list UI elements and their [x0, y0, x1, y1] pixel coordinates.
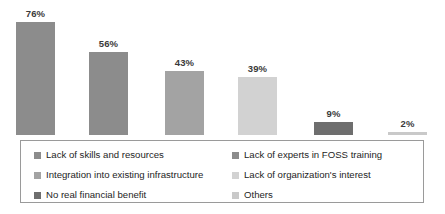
bar-value-label: 56%	[79, 38, 139, 49]
bar-group: 39%	[238, 77, 277, 135]
chart-legend: Lack of skills and resourcesIntegration …	[20, 140, 424, 203]
bar-group: 56%	[89, 52, 128, 135]
bar-value-label: 39%	[228, 63, 288, 74]
legend-item-label: Lack of organization's interest	[244, 170, 371, 180]
legend-item[interactable]: Lack of organization's interest	[232, 166, 423, 184]
legend-item[interactable]: Lack of experts in FOSS training	[232, 146, 423, 164]
bar-value-label: 9%	[304, 108, 364, 119]
legend-item-label: No real financial benefit	[46, 190, 146, 200]
bar-group: 43%	[165, 71, 204, 135]
legend-swatch-icon	[232, 152, 239, 159]
bar-chart: 76%56%43%39%9%2% Lack of skills and reso…	[0, 0, 445, 214]
bar	[238, 77, 277, 135]
bar	[89, 52, 128, 135]
bar-group: 9%	[314, 122, 353, 135]
legend-item[interactable]: Lack of skills and resources	[34, 146, 222, 164]
legend-swatch-icon	[232, 172, 239, 179]
legend-item-label: Lack of experts in FOSS training	[244, 150, 382, 160]
legend-item[interactable]: Others	[232, 186, 423, 204]
legend-swatch-icon	[34, 172, 41, 179]
legend-item-label: Integration into existing infrastructure	[46, 170, 203, 180]
legend-item-label: Lack of skills and resources	[46, 150, 164, 160]
legend-swatch-icon	[34, 152, 41, 159]
legend-item[interactable]: No real financial benefit	[34, 186, 222, 204]
legend-item[interactable]: Integration into existing infrastructure	[34, 166, 222, 184]
legend-item-label: Others	[244, 190, 273, 200]
bar	[388, 132, 427, 135]
bar-value-label: 43%	[155, 57, 215, 68]
legend-column-left: Lack of skills and resourcesIntegration …	[21, 141, 222, 202]
bar	[16, 22, 55, 135]
bar-value-label: 76%	[6, 8, 66, 19]
bar	[165, 71, 204, 135]
bar	[314, 122, 353, 135]
plot-area: 76%56%43%39%9%2%	[0, 0, 445, 140]
legend-swatch-icon	[34, 192, 41, 199]
legend-column-right: Lack of experts in FOSS trainingLack of …	[222, 141, 423, 202]
legend-swatch-icon	[232, 192, 239, 199]
bar-value-label: 2%	[378, 118, 438, 129]
bar-group: 76%	[16, 22, 55, 135]
bar-group: 2%	[388, 132, 427, 135]
